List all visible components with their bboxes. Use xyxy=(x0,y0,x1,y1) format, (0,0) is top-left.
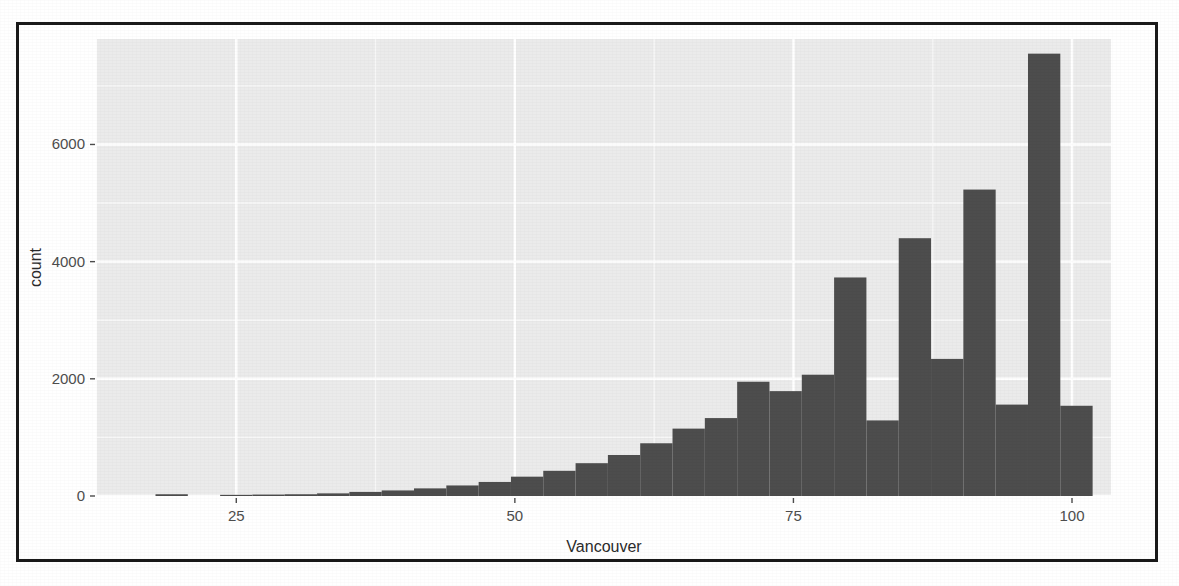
figure-frame: 255075100 0200040006000 Vancouver count xyxy=(16,22,1158,562)
svg-text:75: 75 xyxy=(785,507,802,524)
svg-text:2000: 2000 xyxy=(52,370,85,387)
y-axis-tick-labels: 0200040006000 xyxy=(52,135,85,504)
x-axis-ticks xyxy=(236,498,1072,503)
x-axis-title: Vancouver xyxy=(566,538,642,555)
y-axis-ticks xyxy=(90,144,95,496)
svg-text:4000: 4000 xyxy=(52,253,85,270)
histogram-plot: 255075100 0200040006000 Vancouver count xyxy=(19,25,1155,559)
svg-text:100: 100 xyxy=(1059,507,1084,524)
screenshot-root: 255075100 0200040006000 Vancouver count xyxy=(0,0,1179,586)
svg-text:6000: 6000 xyxy=(52,135,85,152)
x-axis-tick-labels: 255075100 xyxy=(228,507,1085,524)
svg-text:0: 0 xyxy=(77,487,85,504)
histogram-svg: 255075100 0200040006000 Vancouver count xyxy=(19,25,1155,559)
y-axis-title: count xyxy=(27,247,44,287)
svg-text:25: 25 xyxy=(228,507,245,524)
svg-text:50: 50 xyxy=(507,507,524,524)
